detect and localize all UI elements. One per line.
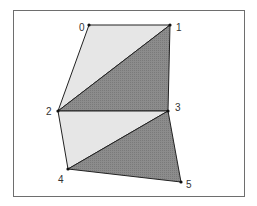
- vertex-4-dot: [66, 167, 69, 170]
- triangle-strip-diagram: 012345: [0, 0, 257, 206]
- vertex-3-label: 3: [175, 102, 181, 113]
- vertex-2-label: 2: [46, 106, 52, 117]
- vertex-5-dot: [179, 180, 182, 183]
- vertex-1-label: 1: [176, 22, 182, 33]
- vertex-1-dot: [168, 23, 171, 26]
- vertex-2-dot: [56, 109, 59, 112]
- vertex-4-label: 4: [58, 174, 64, 185]
- vertex-5-label: 5: [186, 179, 192, 190]
- vertex-0-label: 0: [79, 22, 85, 33]
- vertex-0-dot: [87, 23, 90, 26]
- vertex-3-dot: [166, 109, 169, 112]
